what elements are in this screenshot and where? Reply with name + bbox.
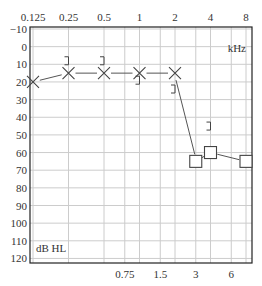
y-tick-label: 50 bbox=[16, 129, 28, 141]
square-marker-icon bbox=[205, 147, 217, 159]
y-tick-label: 110 bbox=[11, 235, 28, 247]
y-tick-label: 90 bbox=[16, 200, 28, 212]
y-tick-label: 120 bbox=[11, 252, 28, 264]
y-tick-label: 100 bbox=[11, 217, 28, 229]
x-top-tick-label: 0.5 bbox=[97, 11, 111, 23]
bracket-marker-icon bbox=[65, 57, 69, 65]
y-tick-label: 70 bbox=[16, 164, 28, 176]
y-tick-label: 20 bbox=[16, 76, 28, 88]
x-unit-label: kHz bbox=[228, 42, 246, 54]
bracket-marker-icon bbox=[171, 85, 175, 93]
y-tick-label: −10 bbox=[10, 23, 28, 35]
y-tick-label: 80 bbox=[16, 182, 28, 194]
square-marker-icon bbox=[190, 155, 202, 167]
x-top-tick-label: 2 bbox=[172, 11, 178, 23]
x-top-tick-label: 4 bbox=[208, 11, 214, 23]
x-bottom-tick-label: 3 bbox=[193, 268, 199, 280]
y-tick-label: 10 bbox=[16, 58, 28, 70]
bracket-marker-icon bbox=[207, 122, 211, 130]
y-tick-label: 0 bbox=[22, 41, 28, 53]
x-bottom-tick-label: 1.5 bbox=[153, 268, 167, 280]
y-tick-label: 30 bbox=[16, 94, 28, 106]
x-top-tick-label: 0.125 bbox=[21, 11, 46, 23]
x-top-tick-label: 8 bbox=[243, 11, 249, 23]
bracket-marker-icon bbox=[136, 76, 140, 84]
series-bracket bbox=[65, 57, 211, 130]
bracket-marker-icon bbox=[100, 57, 104, 65]
y-tick-label: 60 bbox=[16, 147, 28, 159]
audiogram-chart: −1001020304050607080901001101200.1250.25… bbox=[0, 0, 262, 286]
y-tick-label: 40 bbox=[16, 111, 28, 123]
x-bottom-tick-label: 0.75 bbox=[115, 268, 135, 280]
plot-frame bbox=[30, 27, 252, 263]
square-marker-icon bbox=[240, 155, 252, 167]
y-unit-label: dB HL bbox=[36, 242, 67, 254]
grid bbox=[30, 27, 252, 263]
x-bottom-tick-label: 6 bbox=[229, 268, 235, 280]
x-top-tick-label: 0.25 bbox=[59, 11, 79, 23]
series-square bbox=[190, 147, 252, 168]
x-top-tick-label: 1 bbox=[137, 11, 143, 23]
